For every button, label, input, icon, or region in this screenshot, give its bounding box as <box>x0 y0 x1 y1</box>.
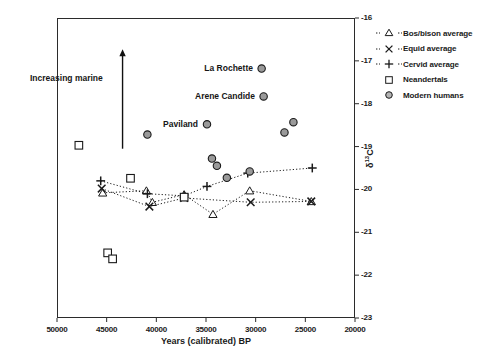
legend-item-cervid[interactable]: Cervid average <box>375 57 483 71</box>
legend-label-cervid: Cervid average <box>403 60 459 69</box>
annotation-arene-candide: Arene Candide <box>140 91 255 101</box>
circle-filled-icon <box>375 89 403 101</box>
square-open-icon <box>375 74 403 86</box>
marker-circle-filled <box>203 121 210 128</box>
legend-label-modern-humans: Modern humans <box>403 91 463 100</box>
marker-triangle-open <box>209 210 217 217</box>
legend-item-bos-bison[interactable]: Bos/bison average <box>375 26 483 40</box>
y-tick-label: -17 <box>361 56 372 65</box>
legend-label-equid: Equid average <box>403 44 456 53</box>
y-tick-label: -21 <box>361 227 372 236</box>
arrow-up-icon <box>119 49 125 149</box>
marker-square-open <box>109 255 117 263</box>
annotation-increasing-marine: Increasing marine <box>30 73 103 83</box>
triangle-open-icon <box>375 27 403 39</box>
legend-item-neandertals[interactable]: Neandertals <box>375 73 483 87</box>
legend: Bos/bison average Equid average Cervid a… <box>375 26 483 104</box>
marker-square-open <box>127 174 135 182</box>
marker-circle-filled <box>260 93 267 100</box>
marker-square-open <box>75 141 83 149</box>
marker-circle-filled <box>144 131 151 138</box>
marker-circle-filled <box>208 155 215 162</box>
annotation-la-rochette: La Rochette <box>140 63 253 73</box>
y-tick-label: -19 <box>361 142 372 151</box>
legend-label-neandertals: Neandertals <box>403 75 448 84</box>
marker-circle-filled <box>246 168 253 175</box>
marker-circle-filled <box>290 118 297 125</box>
marker-triangle-open <box>142 187 150 194</box>
annotation-paviland: Paviland <box>100 119 198 129</box>
marker-circle-filled <box>281 129 288 136</box>
x-tick-label: 20000 <box>325 325 385 334</box>
y-tick-label: -23 <box>361 313 372 322</box>
series-neandertals <box>75 141 188 262</box>
y-axis-title-superscript: 13 <box>364 156 370 163</box>
legend-item-equid[interactable]: Equid average <box>375 42 483 56</box>
y-tick-label: -22 <box>361 270 372 279</box>
marker-circle-filled <box>258 65 265 72</box>
legend-item-modern-humans[interactable]: Modern humans <box>375 88 483 102</box>
y-tick-label: -18 <box>361 99 372 108</box>
marker-circle-filled <box>213 162 220 169</box>
marker-square-open <box>180 193 188 201</box>
marker-circle-filled <box>223 174 230 181</box>
y-tick-label: -16 <box>361 13 372 22</box>
x-cross-icon <box>375 43 403 55</box>
x-axis-title: Years (calibrated) BP <box>57 336 355 346</box>
y-axis-title-delta: δ <box>365 163 375 168</box>
y-axis-title: δ13C <box>364 149 375 168</box>
plus-icon <box>375 58 403 70</box>
y-tick-label: -20 <box>361 184 372 193</box>
series-line <box>103 191 312 215</box>
legend-label-bos-bison: Bos/bison average <box>403 29 472 38</box>
marker-triangle-open <box>246 187 254 194</box>
